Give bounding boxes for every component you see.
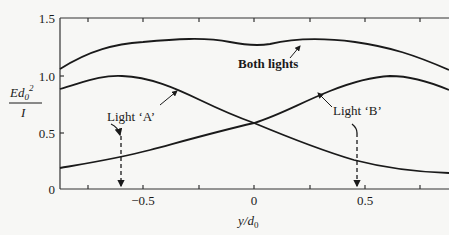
y-tick-label: 1.0 <box>39 69 55 84</box>
y-axis-label: Ed02 I <box>9 83 42 120</box>
light-a-label: Light ‘A’ <box>107 109 155 124</box>
x-tick-label: 0 <box>251 193 258 208</box>
svg-text:I: I <box>20 105 26 120</box>
light-b-label-arrow <box>352 124 357 133</box>
y-tick-label: 0.5 <box>39 126 55 141</box>
svg-text:Ed02: Ed02 <box>9 83 34 102</box>
light-position-markers <box>111 124 357 186</box>
both-lights-label: Both lights <box>238 56 298 71</box>
light-a-label-arrow <box>111 124 120 135</box>
chart: 1.5 1.0 0.5 0 −0.5 0 0.5 Ed02 I y/d0 Bot… <box>0 0 449 235</box>
axes <box>60 18 449 189</box>
x-axis-label: y/d0 <box>236 213 259 230</box>
light-a-curve <box>60 76 449 173</box>
y-tick-label: 0 <box>49 182 56 197</box>
y-tick-label: 1.5 <box>39 11 55 26</box>
x-tick-label: 0.5 <box>357 193 373 208</box>
x-tick-label: −0.5 <box>131 193 155 208</box>
light-b-label: Light ‘B’ <box>333 103 382 118</box>
